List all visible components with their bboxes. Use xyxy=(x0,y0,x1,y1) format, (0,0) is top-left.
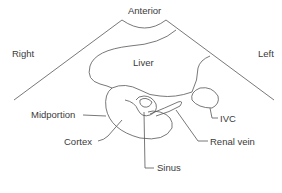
ivc-leader xyxy=(210,108,218,118)
label-renal-vein: Renal vein xyxy=(210,136,255,147)
ivc-outline xyxy=(192,88,219,108)
sinus-inner xyxy=(140,98,152,107)
label-cortex: Cortex xyxy=(64,136,92,147)
label-anterior: Anterior xyxy=(128,5,161,16)
label-ivc: IVC xyxy=(220,113,236,124)
label-sinus: Sinus xyxy=(157,162,181,173)
renal-vein-leader xyxy=(176,110,208,141)
cortex-leader xyxy=(98,120,122,141)
ultrasound-diagram: Anterior Right Left Liver Midportion Cor… xyxy=(0,0,282,193)
kidney-outline xyxy=(106,88,173,139)
sinus-leader xyxy=(144,112,154,168)
label-right: Right xyxy=(12,48,35,59)
label-midportion: Midportion xyxy=(31,109,75,120)
sinus-outline xyxy=(125,96,156,116)
label-liver: Liver xyxy=(133,57,154,68)
renal-vein-outline xyxy=(150,102,182,117)
label-left: Left xyxy=(258,48,274,59)
midportion-leader xyxy=(83,115,106,116)
